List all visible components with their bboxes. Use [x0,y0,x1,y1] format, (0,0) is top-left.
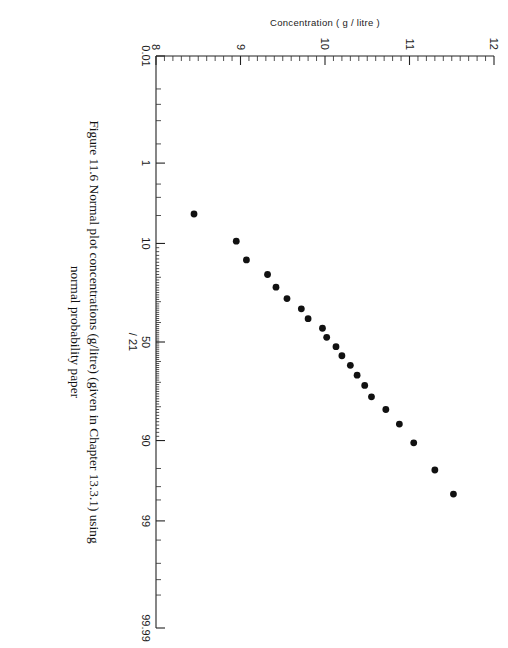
figure-page: 0.0111050909999.99 89101112 Concentratio… [0,0,508,648]
data-point [243,257,250,264]
data-point [319,325,326,332]
x-tick-label: 90 [140,434,152,446]
data-point [450,491,457,498]
y-axis-ticks [156,56,494,65]
y-tick-label: 10 [319,38,331,50]
data-point [410,439,417,446]
caption-line-1: Figure 11.6 Normal plot concentrations (… [87,120,102,543]
x-tick-label: 99 [140,515,152,527]
data-point [298,305,305,312]
sample-size-annotation: / 21 [127,333,139,351]
data-point [305,315,312,322]
y-axis-title: Concentration ( g / litre ) [270,17,380,28]
data-point [396,421,403,428]
data-point [233,238,240,245]
data-point [361,382,368,389]
data-point [368,393,375,400]
x-axis-tick-labels: 0.0111050909999.99 [140,45,152,641]
figure-caption: Figure 11.6 Normal plot concentrations (… [65,52,104,612]
x-axis-ticks [156,56,165,628]
data-point [382,406,389,413]
data-point [347,362,354,369]
y-tick-label: 8 [150,44,162,50]
x-tick-label: 99.99 [140,614,152,642]
data-point [191,211,198,218]
data-point [284,295,291,302]
plot-svg: 0.0111050909999.99 89101112 Concentratio… [116,0,508,648]
data-point [333,343,340,350]
y-tick-label: 12 [488,38,500,50]
data-point [354,372,361,379]
data-point [323,334,330,341]
x-tick-label: 50 [140,336,152,348]
y-tick-label: 9 [235,44,247,50]
y-axis-tick-labels: 89101112 [150,38,500,50]
data-point [273,284,280,291]
x-tick-label: 10 [140,237,152,249]
data-points [191,211,457,498]
x-tick-label: 1 [140,160,152,166]
normal-probability-plot: 0.0111050909999.99 89101112 Concentratio… [116,0,508,648]
data-point [339,352,346,359]
data-point [431,467,438,474]
y-tick-label: 11 [404,39,416,50]
data-point [264,271,271,278]
caption-line-2: normal probability paper [68,266,83,398]
